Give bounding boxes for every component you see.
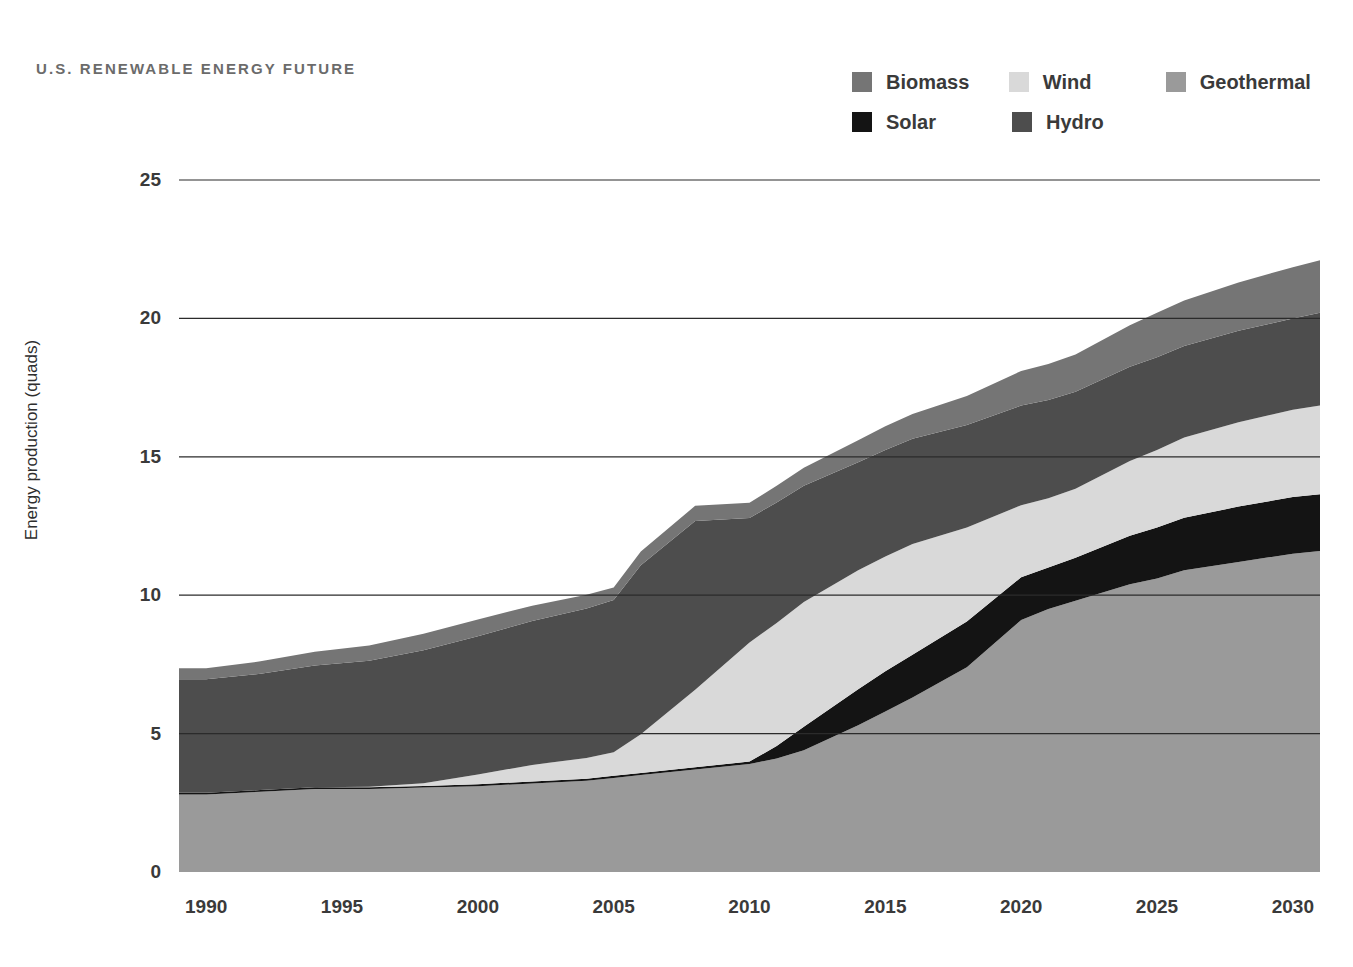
x-tick-label-2030: 2030 [1272,896,1314,918]
x-tick-label-2010: 2010 [728,896,770,918]
y-tick-label-10: 10 [101,584,161,606]
y-tick-label-0: 0 [101,861,161,883]
chart-container: U.S. RENEWABLE ENERGY FUTURE Biomass Win… [0,0,1353,967]
y-tick-label-15: 15 [101,446,161,468]
x-tick-label-2020: 2020 [1000,896,1042,918]
x-tick-label-2005: 2005 [593,896,635,918]
y-tick-label-25: 25 [101,169,161,191]
x-tick-label-1995: 1995 [321,896,363,918]
y-tick-label-5: 5 [101,723,161,745]
x-tick-label-2025: 2025 [1136,896,1178,918]
plot-area [0,0,1353,967]
y-tick-label-20: 20 [101,307,161,329]
x-tick-label-2015: 2015 [864,896,906,918]
x-tick-label-1990: 1990 [185,896,227,918]
x-tick-label-2000: 2000 [457,896,499,918]
